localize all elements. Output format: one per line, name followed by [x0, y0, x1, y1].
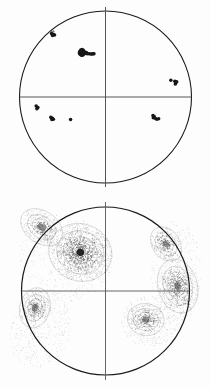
stipple-dot [166, 258, 167, 259]
stipple-dot [169, 294, 170, 295]
stipple-dot [22, 334, 23, 335]
stipple-dot [95, 251, 96, 252]
stipple-dot [182, 312, 183, 313]
stipple-dot [156, 248, 157, 249]
stipple-dot [172, 288, 173, 289]
stipple-dot [76, 278, 77, 279]
stipple-dot [58, 256, 59, 257]
stipple-dot [77, 280, 78, 281]
stipple-dot [178, 293, 179, 294]
stipple-dot [153, 345, 154, 346]
stipple-dot [128, 306, 129, 307]
stipple-dot [182, 243, 183, 244]
stipple-dot [81, 272, 82, 273]
stipple-dot [45, 245, 46, 246]
stipple-dot [78, 243, 79, 244]
stipple-dot [137, 329, 138, 330]
stipple-dot [187, 259, 188, 260]
stipple-dot [131, 323, 132, 324]
stipple-dot [142, 342, 143, 343]
stipple-dot [44, 305, 45, 306]
stipple-dot [152, 266, 153, 267]
stipple-dot [141, 338, 142, 339]
stipple-dot [24, 300, 25, 301]
stipple-dot [133, 310, 134, 311]
stipple-dot [130, 318, 131, 319]
stipple-dot [96, 240, 97, 241]
stipple-dot [107, 251, 108, 252]
stipple-dot [173, 281, 174, 282]
stipple-dot [73, 262, 74, 263]
stipple-dot [195, 269, 196, 270]
stipple-dot [43, 257, 44, 258]
stipple-dot [163, 249, 164, 250]
stipple-dot [76, 265, 77, 266]
stipple-dot [58, 249, 59, 250]
stipple-dot [63, 238, 64, 239]
stipple-dot [195, 294, 196, 295]
stipple-dot [35, 277, 36, 278]
stipple-dot [24, 298, 25, 299]
stipple-dot [190, 314, 191, 315]
stipple-dot [176, 275, 177, 276]
stipple-dot [87, 235, 88, 236]
stipple-dot [167, 262, 168, 263]
stipple-dot [80, 236, 81, 237]
stipple-dot [33, 222, 34, 223]
stipple-dot [26, 229, 27, 230]
stipple-dot [178, 306, 179, 307]
stipple-dot [89, 249, 90, 250]
stipple-dot [49, 248, 50, 249]
stipple-dot [69, 265, 70, 266]
stipple-dot [64, 279, 65, 280]
stipple-dot [94, 239, 95, 240]
stipple-dot [47, 237, 48, 238]
stipple-dot [12, 323, 13, 324]
stipple-dot [49, 252, 50, 253]
stipple-dot [54, 290, 55, 291]
stipple-dot [13, 323, 14, 324]
stipple-dot [23, 266, 24, 267]
stipple-dot [100, 244, 101, 245]
stipple-dot [165, 240, 166, 241]
stipple-dot [32, 226, 33, 227]
stipple-dot [106, 265, 107, 266]
stipple-dot [41, 221, 42, 222]
stipple-dot [31, 358, 32, 359]
stipple-dot [177, 246, 178, 247]
stipple-dot [179, 294, 180, 295]
stipple-dot [57, 348, 58, 349]
stipple-dot [111, 267, 112, 268]
stipple-dot [56, 245, 57, 246]
stipple-dot [177, 297, 178, 298]
stipple-dot [160, 251, 161, 252]
stipple-dot [92, 288, 93, 289]
stipple-dot [157, 247, 158, 248]
stipple-dot [46, 312, 47, 313]
stipple-dot [179, 262, 180, 263]
stipple-dot [187, 277, 188, 278]
stipple-dot [124, 321, 125, 322]
stipple-dot [64, 252, 65, 253]
stipple-dot [189, 232, 190, 233]
stipple-dot [51, 242, 52, 243]
stipple-dot [157, 343, 158, 344]
stipple-dot [167, 333, 168, 334]
stipple-dot [160, 250, 161, 251]
stipple-dot [69, 241, 70, 242]
stipple-dot [16, 334, 17, 335]
stipple-dot [64, 348, 65, 349]
stipple-dot [47, 324, 48, 325]
stipple-dot [175, 261, 176, 262]
stipple-dot [137, 315, 138, 316]
stipple-dot [140, 336, 141, 337]
stipple-dot [44, 333, 45, 334]
stipple-dot [92, 245, 93, 246]
stipple-dot [49, 306, 50, 307]
stipple-dot [27, 329, 28, 330]
stipple-dot [35, 324, 36, 325]
stipple-dot [86, 273, 87, 274]
stipple-dot [190, 275, 191, 276]
stipple-dot [155, 282, 156, 283]
stipple-dot [141, 298, 142, 299]
